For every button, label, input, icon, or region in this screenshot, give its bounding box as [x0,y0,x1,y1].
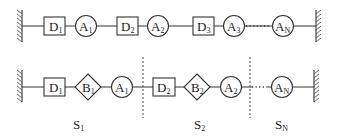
wall-hatch-line [314,90,319,94]
wall-hatch-line [314,74,319,78]
bottom-d2-box: D2 [153,78,175,96]
bottom-d1-box: D1 [44,78,65,96]
top-a3-circle: A3 [224,16,245,37]
wall-hatch-line [17,82,22,86]
wall-hatch-line [17,86,22,90]
wall-hatch-line [17,10,22,14]
wall-hatch-line [314,94,319,98]
right-wall-top [316,10,321,42]
segment-label-sn: SN [275,117,288,133]
wall-hatch-line [316,30,321,34]
wall-hatch-line [316,18,321,22]
top-d2-box: D2 [117,17,138,35]
wall-hatch-line [17,94,22,98]
wall-hatch-line [17,98,22,102]
bottom-a2-circle: A2 [221,77,242,98]
wall-hatch-line [316,22,321,26]
wall-hatch-line [17,74,22,78]
wall-hatch-line [17,26,22,30]
right-wall-bottom [314,70,319,102]
top-d3-box: D3 [193,17,214,35]
wall-hatch-line [316,10,321,14]
segment-label-s2: S2 [194,117,205,133]
top-d1-box: D1 [44,17,65,35]
wall-hatch-line [17,34,22,38]
top-row: D1 A1 D2 A2 D3 A3 AN [17,10,321,42]
top-a2-circle: A2 [148,16,169,37]
bottom-an-circle: AN [272,77,293,98]
wall-hatch-line [316,34,321,38]
wall-hatch-line [314,78,319,82]
bottom-row: D1 B1 A1 D2 B2 A2 AN S1 S2 SN [17,57,319,133]
segment-label-s1: S1 [73,117,84,133]
wall-hatch-line [17,22,22,26]
wall-hatch-line [17,70,22,74]
left-wall-top [17,10,22,42]
wall-hatch-line [17,30,22,34]
top-an-circle: AN [273,16,294,37]
bottom-a1-circle: A1 [112,77,133,98]
wall-hatch-line [17,90,22,94]
top-a1-circle: A1 [76,16,97,37]
bottom-b2-diamond: B2 [184,74,210,100]
chain-diagram: D1 A1 D2 A2 D3 A3 AN [0,0,337,139]
wall-hatch-line [316,38,321,42]
wall-hatch-line [316,14,321,18]
wall-hatch-line [314,82,319,86]
wall-hatch-line [17,18,22,22]
bottom-b1-diamond: B1 [75,74,101,100]
wall-hatch-line [314,98,319,102]
wall-hatch-line [314,70,319,74]
wall-hatch-line [316,26,321,30]
top-d1-letter: D [49,19,58,34]
wall-hatch-line [314,86,319,90]
wall-hatch-line [17,78,22,82]
wall-hatch-line [17,14,22,18]
left-wall-bottom [17,70,22,102]
wall-hatch-line [17,38,22,42]
